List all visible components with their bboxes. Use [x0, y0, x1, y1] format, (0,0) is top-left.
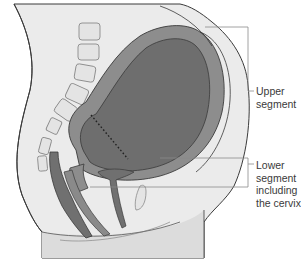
lower-segment-label: Lower segment including the cervix: [256, 159, 301, 209]
pelvis-diagram: [0, 0, 301, 264]
upper-segment-label: Upper segment: [256, 85, 296, 110]
